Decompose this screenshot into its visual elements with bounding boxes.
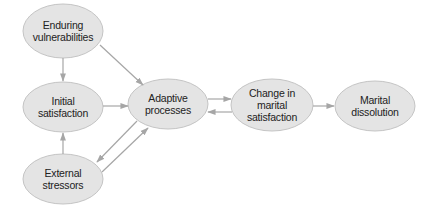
label-change-in-marital-satisfaction: Change in marital satisfaction [231,79,313,131]
label-external-stressors: External stressors [23,154,103,204]
label-enduring-vulnerabilities: Enduring vulnerabilities [23,4,103,58]
label-marital-dissolution: Marital dissolution [335,81,415,131]
label-initial-satisfaction: Initial satisfaction [23,82,103,132]
diagram-canvas: Enduring vulnerabilities Initial satisfa… [0,0,442,205]
label-adaptive-processes: Adaptive processes [128,79,208,129]
